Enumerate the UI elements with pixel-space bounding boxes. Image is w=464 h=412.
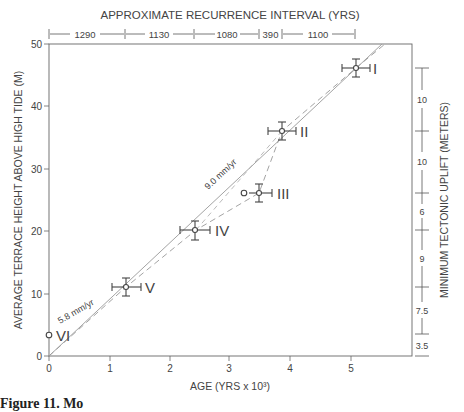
data-point-VI	[46, 332, 52, 338]
y-tick: 0	[36, 351, 42, 362]
open-point	[241, 190, 247, 196]
figure-caption: Figure 11. Mo	[0, 396, 83, 412]
point-label: IV	[215, 222, 229, 239]
y2-axis-label: MINIMUM TECTONIC UPLIFT (METERS)	[438, 102, 450, 298]
data-point-III	[249, 184, 272, 202]
point-label: V	[145, 279, 155, 296]
chart-title: APPROXIMATE RECURRENCE INTERVAL (YRS)	[100, 9, 359, 21]
data-point-II	[268, 122, 296, 140]
interval-label: 1080	[216, 29, 237, 40]
interval-label: 390	[263, 29, 279, 40]
point-label: II	[300, 123, 308, 140]
y-tick: 20	[31, 226, 43, 237]
interval-label: 1130	[149, 29, 169, 40]
y-tick: 40	[31, 101, 43, 112]
x-tick: 0	[46, 363, 52, 374]
uplift-label: 10	[417, 95, 427, 105]
uplift-label: 3.5	[416, 341, 429, 351]
rate-label-9mm: 9.0 mm/yr	[203, 157, 239, 192]
y-tick: 30	[31, 164, 43, 175]
x-tick: 5	[348, 363, 354, 374]
rate-line-9mm	[49, 44, 382, 356]
x-tick: 4	[287, 363, 293, 374]
x-axis-label: AGE (YRS x 10³)	[190, 380, 270, 392]
y-axis-label: AVERAGE TERRACE HEIGHT ABOVE HIGH TIDE (…	[12, 71, 24, 329]
x-tick: 1	[107, 363, 113, 374]
uplift-label: 7.5	[416, 306, 429, 316]
x-tick: 2	[167, 363, 173, 374]
uplift-label: 9	[419, 254, 424, 264]
plot-frame	[49, 44, 412, 356]
rate-label-5-8mm: 5.8 mm/yr	[56, 297, 96, 326]
x-tick: 3	[226, 363, 232, 374]
interval-label: 1290	[74, 29, 95, 40]
point-label: III	[277, 185, 290, 202]
point-label: VI	[56, 327, 70, 344]
point-label: I	[373, 60, 377, 77]
uplift-label: 10	[417, 157, 427, 167]
y-tick: 10	[31, 289, 43, 300]
y-tick: 50	[31, 39, 43, 50]
data-point-I	[342, 59, 370, 77]
uplift-label: 6	[419, 207, 424, 217]
data-point-IV	[180, 221, 210, 240]
interval-label: 1100	[308, 29, 328, 40]
